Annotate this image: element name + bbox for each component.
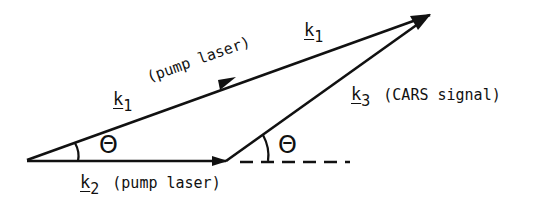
k3-label: k3 (CARS signal) xyxy=(351,86,501,103)
right-angle-arc xyxy=(263,135,268,161)
left-angle-arc xyxy=(75,143,79,161)
k1-mid-label: k1 xyxy=(113,91,132,108)
k2-label: k2 (pump laser) xyxy=(80,174,221,191)
angle-theta-left: Θ xyxy=(99,133,118,157)
k2-arrowhead xyxy=(212,156,228,166)
cars-phase-matching-diagram: k1 k1 (pump laser) k2 (pump laser) k3 (C… xyxy=(0,0,552,208)
k1-top-label: k1 xyxy=(304,22,323,39)
angle-theta-right: Θ xyxy=(278,133,297,157)
